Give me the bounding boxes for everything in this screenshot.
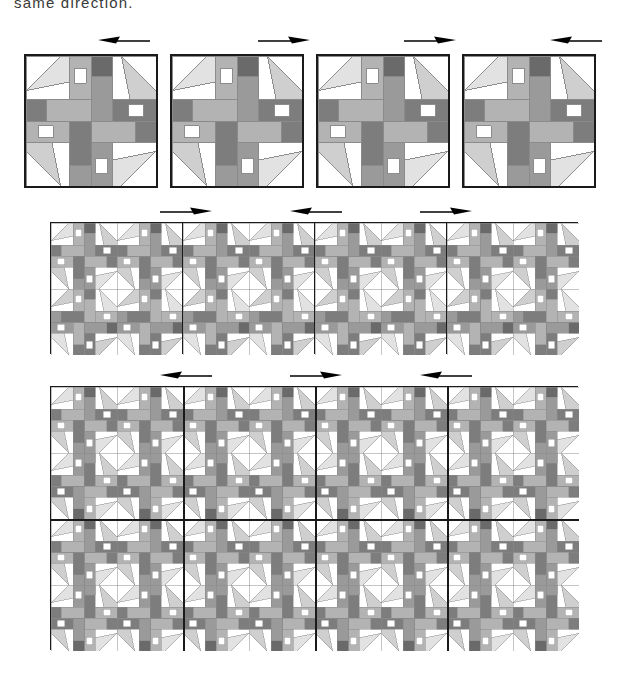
block-art xyxy=(172,56,302,186)
sub-block xyxy=(249,289,315,355)
sub-block xyxy=(117,223,183,289)
setting-block xyxy=(381,519,447,585)
sub-block xyxy=(381,223,447,289)
page-caption: same direction. xyxy=(14,0,134,11)
setting-block xyxy=(249,585,315,651)
setting-block xyxy=(381,453,447,519)
setting-block xyxy=(513,453,579,519)
single-block-4 xyxy=(462,54,596,188)
setting-block xyxy=(447,387,513,453)
setting-block xyxy=(117,453,183,519)
single-block-2 xyxy=(170,54,304,188)
setting-block xyxy=(183,453,249,519)
setting-block xyxy=(117,585,183,651)
setting-block xyxy=(315,387,381,453)
sub-block xyxy=(315,289,381,355)
setting-block xyxy=(381,585,447,651)
seam-arrow-row1-4 xyxy=(550,35,602,46)
single-block-3 xyxy=(316,54,450,188)
setting-block xyxy=(315,453,381,519)
sub-block xyxy=(183,223,249,289)
sub-block xyxy=(513,289,579,355)
joined-panel-2 xyxy=(182,222,314,354)
seam-arrow-row2-2 xyxy=(290,206,342,217)
setting-block xyxy=(447,585,513,651)
setting-block xyxy=(183,519,249,585)
setting-block xyxy=(381,387,447,453)
joined-panel-4 xyxy=(446,222,578,354)
sub-block xyxy=(249,223,315,289)
setting-block xyxy=(51,453,117,519)
sub-block xyxy=(117,289,183,355)
sub-block xyxy=(315,223,381,289)
setting-block xyxy=(315,585,381,651)
block-art xyxy=(318,56,448,186)
seam-arrow-row2-1 xyxy=(160,206,212,217)
setting-block xyxy=(513,519,579,585)
block-art xyxy=(464,56,594,186)
seam-arrow-row3-2 xyxy=(290,370,342,381)
setting-block xyxy=(249,453,315,519)
sub-block xyxy=(51,223,117,289)
setting-block xyxy=(51,585,117,651)
setting-block xyxy=(183,585,249,651)
sub-block xyxy=(183,289,249,355)
setting-block xyxy=(315,519,381,585)
setting-block xyxy=(51,519,117,585)
block-art xyxy=(26,56,156,186)
setting-block xyxy=(447,519,513,585)
seam-arrow-row3-1 xyxy=(160,370,212,381)
seam-arrow-row1-3 xyxy=(404,35,456,46)
setting-block xyxy=(249,387,315,453)
setting-block xyxy=(51,387,117,453)
sub-block xyxy=(447,289,513,355)
sub-block xyxy=(51,289,117,355)
setting-block xyxy=(117,519,183,585)
setting-block xyxy=(249,519,315,585)
sub-block xyxy=(513,223,579,289)
seam-arrow-row1-1 xyxy=(98,35,150,46)
sub-block xyxy=(447,223,513,289)
setting-block xyxy=(117,387,183,453)
joined-panel-1 xyxy=(50,222,182,354)
seam-arrow-row1-2 xyxy=(258,35,310,46)
single-block-1 xyxy=(24,54,158,188)
setting-block xyxy=(513,387,579,453)
setting-block xyxy=(513,585,579,651)
panel-seam-horizontal xyxy=(51,519,579,521)
seam-arrow-row2-3 xyxy=(420,206,472,217)
setting-block xyxy=(183,387,249,453)
setting-block xyxy=(447,453,513,519)
seam-arrow-row3-3 xyxy=(420,370,472,381)
joined-panel-3 xyxy=(314,222,446,354)
sub-block xyxy=(381,289,447,355)
full-setting xyxy=(50,386,578,650)
